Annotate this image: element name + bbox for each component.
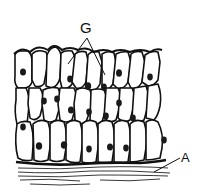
- label-g: G: [80, 20, 92, 35]
- basal-cell-row: [16, 120, 163, 163]
- connective-tissue: [18, 167, 170, 185]
- epithelium-diagram: [0, 0, 209, 193]
- label-a: A: [181, 151, 190, 164]
